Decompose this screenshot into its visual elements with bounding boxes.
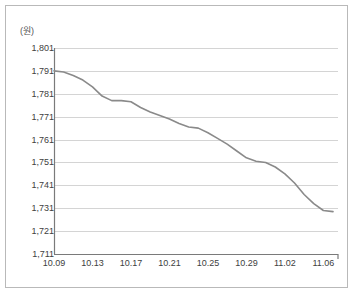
y-axis-tick-label: 1,791 (14, 66, 54, 76)
x-axis-tick-label: 10.13 (70, 258, 114, 268)
x-axis-tick-label: 10.09 (32, 258, 76, 268)
y-axis-tick-label: 1,771 (14, 112, 54, 122)
y-axis-tick-label: 1,781 (14, 89, 54, 99)
price-series-line (54, 71, 333, 212)
x-axis-tick-label: 10.25 (186, 258, 230, 268)
axis-lines (55, 48, 339, 259)
plot-area: 1,8011,7911,7811,7711,7611,7511,7411,731… (6, 6, 349, 289)
y-axis-tick-label: 1,761 (14, 135, 54, 145)
x-axis-tick-label: 10.21 (147, 258, 191, 268)
y-axis-tick-label: 1,741 (14, 180, 54, 190)
y-axis-tick-label: 1,801 (14, 43, 54, 53)
line-chart-svg (6, 6, 349, 289)
x-axis-tick-label: 10.29 (224, 258, 268, 268)
x-axis-tick-label: 11.02 (263, 258, 307, 268)
gridlines (54, 49, 338, 255)
y-axis-tick-label: 1,751 (14, 157, 54, 167)
x-axis-tick-label: 11.06 (301, 258, 345, 268)
x-axis-tick-label: 10.17 (109, 258, 153, 268)
y-axis-tick-label: 1,721 (14, 226, 54, 236)
chart-frame: (원) 1,8011,7911,7811,7711,7611,7511,7411… (5, 5, 348, 288)
y-axis-tick-label: 1,731 (14, 203, 54, 213)
